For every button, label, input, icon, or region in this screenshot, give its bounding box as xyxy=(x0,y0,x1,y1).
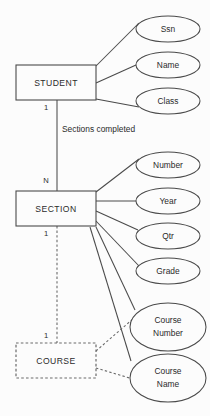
cardinality-student-side: 1 xyxy=(44,103,48,112)
attribute-ssn[interactable]: Ssn xyxy=(136,16,200,42)
attribute-course-name[interactable]: Course Name xyxy=(130,354,206,402)
attribute-qtr[interactable]: Qtr xyxy=(136,223,200,249)
attribute-grade-label: Grade xyxy=(156,266,180,276)
link-student-ssn xyxy=(96,23,139,66)
entity-student[interactable]: STUDENT xyxy=(16,65,96,100)
attribute-number-label: Number xyxy=(153,160,183,170)
attribute-course-name-label-line1: Course xyxy=(155,366,182,376)
link-student-name xyxy=(96,65,136,83)
attribute-course-name-label-line2: Name xyxy=(157,379,180,389)
entity-section[interactable]: SECTION xyxy=(16,191,96,226)
attribute-name[interactable]: Name xyxy=(136,52,200,78)
attribute-grade[interactable]: Grade xyxy=(136,258,200,284)
attribute-class-label: Class xyxy=(158,96,179,106)
attribute-qtr-label: Qtr xyxy=(162,231,174,241)
attribute-course-number-ellipse[interactable] xyxy=(130,303,206,351)
link-course-course-name xyxy=(96,368,133,379)
link-student-class xyxy=(96,99,139,107)
er-diagram-canvas: STUDENT SECTION COURSE Ssn Name Class Nu… xyxy=(0,0,210,416)
attribute-class[interactable]: Class xyxy=(136,88,200,114)
entity-student-label: STUDENT xyxy=(34,78,78,88)
cardinality-section-course-top: 1 xyxy=(44,229,48,238)
attribute-course-number-label-line1: Course xyxy=(155,315,182,325)
entity-section-label: SECTION xyxy=(35,204,76,214)
attribute-course-name-ellipse[interactable] xyxy=(130,354,206,402)
link-course-course-number xyxy=(96,318,134,351)
link-section-number xyxy=(96,159,139,192)
link-section-course-number xyxy=(96,227,135,310)
attribute-number[interactable]: Number xyxy=(136,152,200,178)
relationship-sections-completed-label: Sections completed xyxy=(62,124,135,134)
link-section-course-name xyxy=(90,227,131,361)
cardinality-section-side: N xyxy=(43,176,48,185)
attribute-year-label: Year xyxy=(160,196,177,206)
attribute-course-number-label-line2: Number xyxy=(153,328,183,338)
cardinality-section-course-bottom: 1 xyxy=(44,331,48,340)
attribute-course-number[interactable]: Course Number xyxy=(130,303,206,351)
entity-course-label: COURSE xyxy=(36,356,75,366)
attribute-name-label: Name xyxy=(157,60,180,70)
attribute-year[interactable]: Year xyxy=(136,188,200,214)
attribute-ssn-label: Ssn xyxy=(161,24,176,34)
entity-course[interactable]: COURSE xyxy=(16,343,96,378)
